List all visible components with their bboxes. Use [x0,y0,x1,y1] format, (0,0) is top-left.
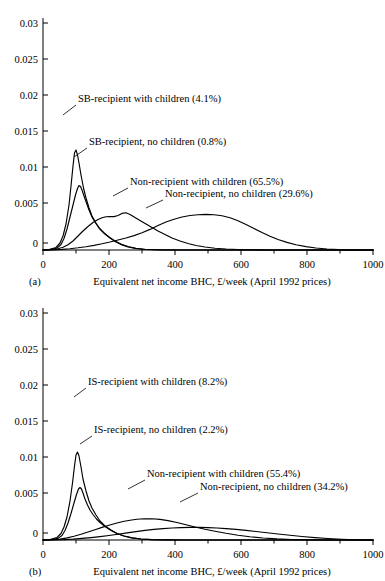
y-tick-label: 0.025 [14,54,38,65]
annotation-is-recipient-no-children: IS-recipient, no children (2.2%) [94,424,228,436]
figure-container: 0.03 0.025 0.02 0.015 0.01 0.005 0 [0,0,385,581]
y-tick-label: 0.03 [20,18,38,29]
panel-b-leader-lines [74,388,198,502]
annotation-sb-recipient-with-children: SB-recipient with children (4.1%) [78,93,221,105]
y-tick-label: 0.02 [20,380,38,391]
curve-is-recipient-with-children [43,452,373,540]
x-tick-label: 600 [233,259,249,270]
annotation-sb-recipient-no-children: SB-recipient, no children (0.8%) [89,136,227,148]
x-tick-label: 0 [40,549,45,560]
x-tick-label: 1000 [363,259,384,270]
panel-a-xlabel: Equivalent net income BHC, £/week (April… [93,276,331,288]
panel-a-label: (a) [29,276,41,288]
y-tick-label: 0.03 [20,308,38,319]
panel-b-x-ticks [43,540,373,545]
panel-a-x-ticks [43,250,373,255]
x-tick-label: 600 [233,549,249,560]
y-tick-label: 0.015 [14,126,38,137]
y-tick-label: 0.005 [14,198,38,209]
annotation-non-recipient-with-children: Non-recipient with children (55.4%) [147,468,301,480]
x-tick-label: 0 [40,259,45,270]
panel-a-yaxis-ticklabels: 0.03 0.025 0.02 0.015 0.01 0.005 0 [14,18,38,249]
panel-b-plot: 0.03 0.025 0.02 0.015 0.01 0.005 0 [0,290,385,581]
panel-b-yaxis-ticklabels: 0.03 0.025 0.02 0.015 0.01 0.005 0 [14,308,38,539]
panel-a-plot: 0.03 0.025 0.02 0.015 0.01 0.005 0 [0,0,385,290]
y-tick-label: 0.01 [20,162,38,173]
annotation-non-recipient-no-children: Non-recipient, no children (34.2%) [200,481,348,493]
y-tick-label: 0 [33,238,38,249]
curve-is-recipient-no-children [43,488,373,541]
panel-a: 0.03 0.025 0.02 0.015 0.01 0.005 0 [0,0,385,290]
x-tick-label: 200 [101,549,117,560]
x-tick-label: 400 [167,259,183,270]
panel-b-y-ticks [43,313,48,533]
panel-a-xaxis-ticklabels: 0 200 400 600 800 1000 [40,259,383,270]
x-tick-label: 200 [101,259,117,270]
panel-a-y-ticks [43,23,48,243]
y-tick-label: 0.015 [14,416,38,427]
panel-b: 0.03 0.025 0.02 0.015 0.01 0.005 0 [0,290,385,580]
panel-b-label: (b) [29,566,42,578]
curve-non-recipient-with-children-b [43,519,373,540]
x-tick-label: 400 [167,549,183,560]
curve-non-recipient-no-children-b [43,527,373,540]
annotation-non-recipient-no-children: Non-recipient, no children (29.6%) [165,188,313,200]
curve-non-recipient-no-children-a [43,214,373,250]
y-tick-label: 0.02 [20,90,38,101]
x-tick-label: 800 [299,259,315,270]
panel-b-xaxis-ticklabels: 0 200 400 600 800 1000 [40,549,383,560]
annotation-non-recipient-with-children: Non-recipient with children (65.5%) [130,176,284,188]
curve-sb-recipient-with-children [43,150,373,250]
x-tick-label: 800 [299,549,315,560]
y-tick-label: 0.005 [14,488,38,499]
y-tick-label: 0.025 [14,344,38,355]
panel-b-xlabel: Equivalent net income BHC, £/week (April… [93,566,331,578]
annotation-is-recipient-with-children: IS-recipient with children (8.2%) [88,376,228,388]
y-tick-label: 0.01 [20,452,38,463]
x-tick-label: 1000 [363,549,384,560]
y-tick-label: 0 [33,528,38,539]
